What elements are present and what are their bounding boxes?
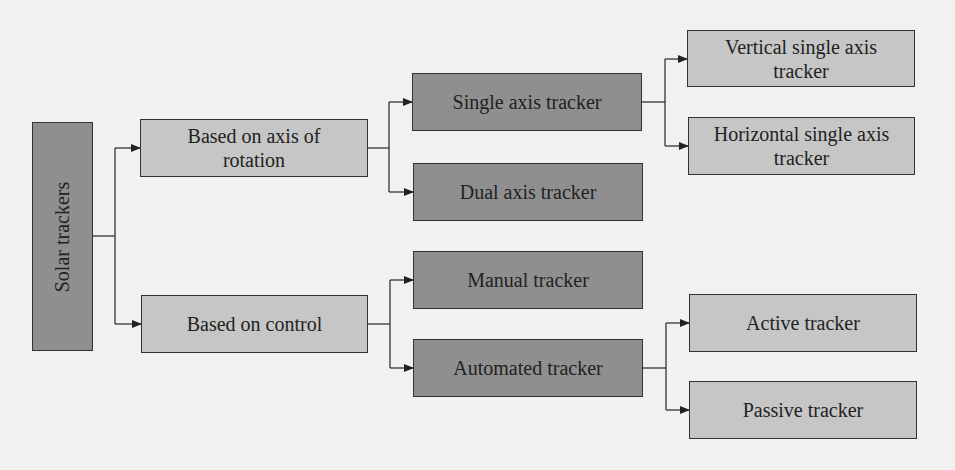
node-label: Horizontal single axis tracker <box>694 122 909 170</box>
node-horizontal-single-axis-tracker: Horizontal single axis tracker <box>688 117 915 175</box>
node-label: Automated tracker <box>453 356 602 380</box>
node-label: Manual tracker <box>467 268 589 292</box>
node-single-axis-tracker: Single axis tracker <box>412 73 642 131</box>
node-vertical-single-axis-tracker: Vertical single axis tracker <box>687 30 915 87</box>
node-active-tracker: Active tracker <box>689 294 917 352</box>
node-solar-trackers: Solar trackers <box>32 122 93 351</box>
node-label: Single axis tracker <box>453 90 602 114</box>
node-based-on-axis-of-rotation: Based on axis of rotation <box>140 119 368 177</box>
node-automated-tracker: Automated tracker <box>413 339 643 397</box>
node-dual-axis-tracker: Dual axis tracker <box>413 163 643 221</box>
node-based-on-control: Based on control <box>141 295 368 353</box>
node-manual-tracker: Manual tracker <box>413 251 643 309</box>
node-label: Based on control <box>187 312 323 336</box>
node-label: Dual axis tracker <box>460 180 597 204</box>
node-label: Based on axis of rotation <box>169 124 339 172</box>
node-label: Active tracker <box>746 311 860 335</box>
node-label: Solar trackers <box>51 181 75 292</box>
node-label: Vertical single axis tracker <box>706 35 896 83</box>
node-label: Passive tracker <box>743 398 864 422</box>
node-passive-tracker: Passive tracker <box>689 381 917 439</box>
